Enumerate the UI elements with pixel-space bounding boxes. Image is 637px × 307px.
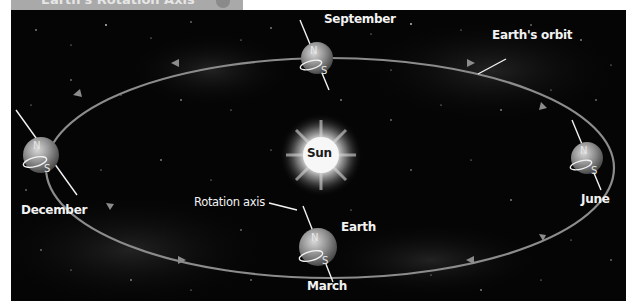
label-earth: Earth <box>341 220 376 234</box>
section-badge-icon <box>216 0 230 8</box>
pole-north-march: N <box>311 232 318 243</box>
label-sun: Sun <box>307 146 332 160</box>
pole-north-june: N <box>580 145 587 156</box>
figure-title: Earth's Rotation Axis <box>41 0 195 7</box>
orbit-diagram: September Earth's orbit June March Decem… <box>11 10 626 301</box>
label-december: December <box>21 203 87 217</box>
label-earths-orbit: Earth's orbit <box>492 28 572 42</box>
pole-south-september: S <box>321 65 327 76</box>
pole-north-december: N <box>33 140 40 151</box>
label-march: March <box>307 279 347 293</box>
pole-north-september: N <box>310 45 317 56</box>
earth-december-icon <box>16 110 77 195</box>
pole-south-december: S <box>44 163 50 174</box>
pole-south-june: S <box>591 165 597 176</box>
pole-south-march: S <box>322 255 328 266</box>
label-september: September <box>324 12 396 26</box>
header-bar: Earth's Rotation Axis <box>11 0 243 10</box>
label-rotation-axis: Rotation axis <box>194 195 265 209</box>
label-june: June <box>581 192 610 206</box>
